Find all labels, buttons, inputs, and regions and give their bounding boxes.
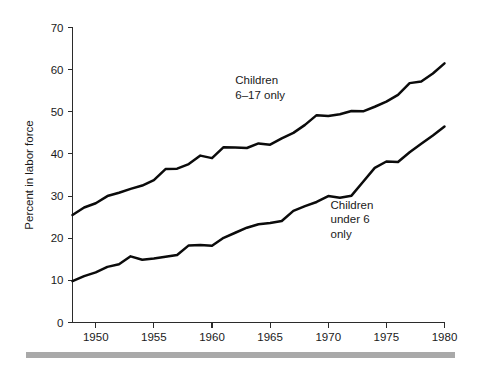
y-tick-label: 40 [51,148,64,160]
chart-page: 010203040506070 Percent in labor force 1… [0,0,481,372]
x-tick-label: 1975 [374,331,400,343]
chart-canvas: 010203040506070 Percent in labor force 1… [0,0,481,372]
y-axis-title: Percent in labor force [23,120,35,229]
annotation-children-under-6-line-2: under 6 [331,213,370,225]
y-tick-label: 70 [51,22,64,34]
annotation-children-under-6: Childrenunder 6only [331,199,374,240]
x-tick-label: 1955 [141,331,167,343]
y-axis: 010203040506070 Percent in labor force [23,22,73,329]
series-line-children-under-6 [73,127,445,282]
x-tick-label: 1970 [315,331,341,343]
chart-annotations-group: Children6–17 onlyChildrenunder 6only [235,74,373,239]
y-tick-label: 60 [51,64,64,76]
y-tick-label: 50 [51,106,64,118]
y-axis-ticks: 010203040506070 [51,22,73,329]
y-tick-label: 30 [51,190,64,202]
y-tick-label: 0 [57,317,63,329]
annotation-children-6-17: Children6–17 only [235,74,285,101]
annotation-children-6-17-line-2: 6–17 only [235,89,285,101]
x-tick-label: 1965 [257,331,283,343]
line-chart-figure: 010203040506070 Percent in labor force 1… [0,0,481,372]
annotation-children-under-6-line-1: Children [331,199,374,211]
footer-divider-rule [26,352,455,358]
y-tick-label: 20 [51,232,64,244]
annotation-children-under-6-line-3: only [331,228,352,240]
x-tick-label: 1950 [83,331,109,343]
y-tick-label: 10 [51,274,64,286]
x-tick-label: 1980 [432,331,458,343]
x-axis: 1950195519601965197019751980 [73,323,458,343]
x-axis-ticks: 1950195519601965197019751980 [83,323,457,343]
annotation-children-6-17-line-1: Children [235,74,278,86]
x-tick-label: 1960 [199,331,225,343]
